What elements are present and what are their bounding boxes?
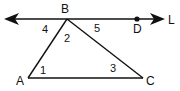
point-d-dot	[134, 16, 139, 21]
angle-label-4: 4	[42, 23, 48, 35]
label-b: B	[61, 2, 69, 16]
angle-label-2: 2	[64, 32, 70, 44]
angle-label-1: 1	[40, 64, 46, 76]
geometry-diagram: B D L A C 4 2 5 1 3	[0, 0, 180, 91]
label-c: C	[146, 74, 155, 88]
label-d: D	[133, 22, 142, 36]
label-a: A	[16, 74, 24, 88]
angle-label-3: 3	[110, 62, 116, 74]
label-l: L	[168, 13, 175, 27]
angle-label-5: 5	[94, 22, 100, 34]
